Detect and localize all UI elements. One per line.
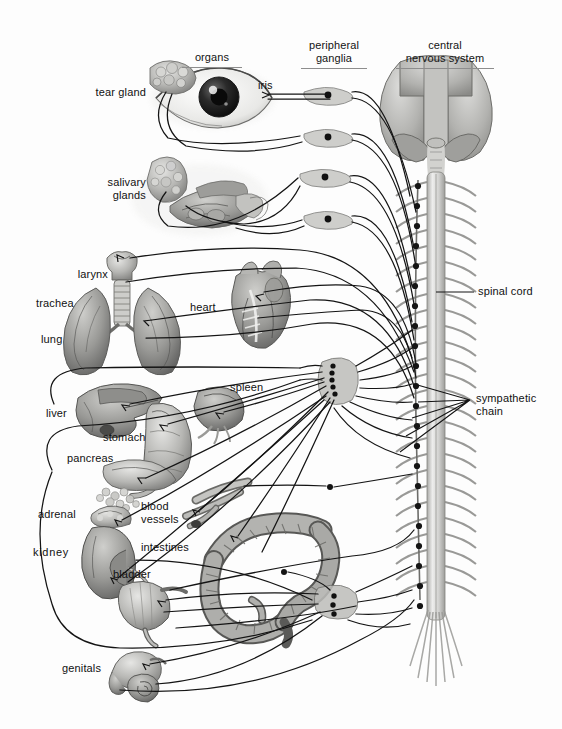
label-adrenal: adrenal [38,508,92,521]
column-header-ganglia-rule [301,68,367,69]
label-blood-vessels: blood vessels [141,500,195,526]
peripheral-ganglion-4 [304,211,353,229]
label-heart: heart [190,301,234,314]
intestines-organ [206,523,331,644]
anatomy-artwork-layer [0,0,562,729]
label-liver: liver [46,407,82,420]
peripheral-ganglion-3 [300,169,351,187]
label-spleen: spleen [230,381,278,394]
cranial-ganglia-group [300,87,353,229]
column-header-cns-label: central nervous system [406,39,484,64]
label-genitals: genitals [62,662,118,675]
column-header-organs-label: organs [195,51,229,63]
peripheral-ganglion-2 [304,129,353,147]
column-header-organs: organs [178,38,246,81]
label-larynx: larynx [64,268,108,281]
column-header-cns: central nervous system [390,26,500,82]
column-header-ganglia: peripheral ganglia [296,26,372,82]
label-kidney: kidney [33,546,83,559]
column-header-ganglia-label: peripheral ganglia [309,39,359,64]
label-bladder: bladder [113,568,167,581]
label-tear-gland: tear gland [84,86,146,99]
peripheral-ganglion-1 [304,87,353,105]
cauda-equina [410,610,462,686]
autonomic-nervous-system-figure: organs peripheral ganglia central nervou… [0,0,562,729]
label-sympathetic-chain: sympathetic chain [476,392,560,418]
blood-vessels-organ [186,482,248,528]
heart-organ [232,261,291,348]
bladder-organ [118,581,186,646]
label-stomach: stomach [103,431,159,444]
genitals-organ [109,652,166,702]
label-lung: lung [41,333,81,346]
label-spinal-cord: spinal cord [478,285,558,298]
label-salivary-glands: salivary glands [88,176,146,202]
label-pancreas: pancreas [67,452,127,465]
label-trachea: trachea [36,297,92,310]
column-header-cns-rule [396,68,494,69]
spleen-organ [194,387,244,444]
column-header-organs-rule [182,67,242,68]
adrenal-gland-organ [91,506,131,528]
pelvic-ganglion-structure [314,585,357,619]
label-iris: iris [258,79,288,92]
label-intestines: intestines [141,541,207,554]
